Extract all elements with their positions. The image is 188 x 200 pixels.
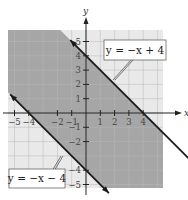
y-tick-label: 4 (76, 51, 81, 61)
y-tick-label: −1 (68, 122, 81, 132)
x-tick-label: 2 (112, 117, 117, 127)
y-axis-arrow-icon (84, 17, 89, 24)
y-tick-label: 5 (76, 37, 81, 47)
x-axis-label: x (184, 108, 188, 118)
x-tick-label: −2 (51, 117, 64, 127)
callout-text-upper: y = −x + 4 (105, 44, 165, 56)
y-tick-label: −2 (68, 137, 81, 147)
chart: xy −5−4−2−1123454321−1−2−4−5 y = −x + 4y… (0, 0, 188, 200)
x-tick-label: 1 (98, 117, 103, 127)
x-tick-label: 3 (126, 117, 131, 127)
x-tick-label: −4 (23, 117, 36, 127)
callout-text-lower: y = −x − 4 (7, 172, 67, 184)
y-tick-label: −5 (68, 180, 81, 190)
y-tick-label: 3 (76, 65, 81, 75)
y-tick-label: −4 (68, 165, 81, 175)
y-tick-label: 2 (76, 79, 81, 89)
y-axis-label: y (82, 6, 89, 16)
x-tick-label: −5 (8, 117, 21, 127)
x-tick-label: 4 (140, 117, 145, 127)
y-tick-label: 1 (76, 94, 81, 104)
x-axis-arrow-icon (175, 111, 182, 116)
